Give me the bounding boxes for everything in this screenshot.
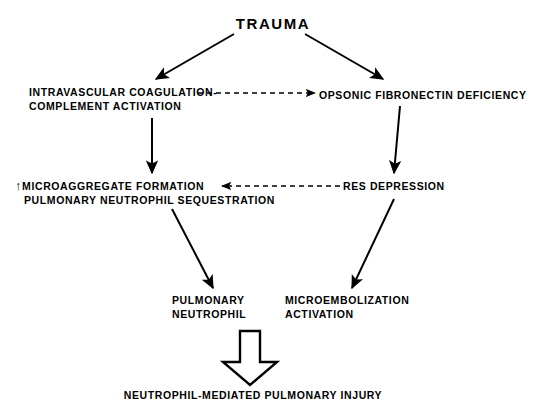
edge-microaggregate-to-pulmonary-neutrophil xyxy=(172,209,213,288)
node-pulmonary-neutrophil: PULMONARY NEUTROPHIL xyxy=(172,293,246,321)
node-res-depression: RES DEPRESSION xyxy=(343,179,445,193)
node-outcome-label: NEUTROPHIL-MEDIATED PULMONARY INJURY xyxy=(0,388,506,402)
node-intravascular-line1: INTRAVASCULAR COAGULATION- xyxy=(29,85,217,99)
node-trauma-label: TRAUMA xyxy=(0,14,546,34)
flowchart-diagram: OPSONIC --> MICROAGGREGATE (left) --> TR… xyxy=(0,0,546,406)
node-intravascular-coagulation: INTRAVASCULAR COAGULATION- COMPLEMENT AC… xyxy=(29,85,217,113)
node-microembolization-activation: MICROEMBOLIZATION ACTIVATION xyxy=(285,293,409,321)
node-pulmonary-neutrophil-line1: PULMONARY xyxy=(172,293,246,307)
node-microembolization-line2: ACTIVATION xyxy=(285,307,409,321)
node-microaggregate-line2: PULMONARY NEUTROPHIL SEQUESTRATION xyxy=(24,193,275,207)
node-microaggregate-line1: ↑MICROAGGREGATE FORMATION xyxy=(15,179,275,193)
edge-res-to-microembolization xyxy=(352,199,394,288)
node-microaggregate-formation: ↑MICROAGGREGATE FORMATION PULMONARY NEUT… xyxy=(15,179,275,207)
node-pulmonary-neutrophil-line2: NEUTROPHIL xyxy=(172,307,246,321)
node-res-line1: RES DEPRESSION xyxy=(343,179,445,193)
node-opsonic-line1: OPSONIC FIBRONECTIN DEFICIENCY xyxy=(319,88,527,102)
node-trauma: TRAUMA xyxy=(0,14,546,34)
node-intravascular-line2: COMPLEMENT ACTIVATION xyxy=(29,99,217,113)
node-outcome: NEUTROPHIL-MEDIATED PULMONARY INJURY xyxy=(0,388,506,402)
edge-opsonic-to-res xyxy=(394,106,400,173)
edge-to-outcome xyxy=(223,331,277,385)
node-opsonic-fibronectin-deficiency: OPSONIC FIBRONECTIN DEFICIENCY xyxy=(319,88,527,102)
edge-trauma-to-opsonic xyxy=(305,34,383,79)
edge-trauma-to-intravascular xyxy=(156,34,234,79)
node-microaggregate-text: MICROAGGREGATE FORMATION xyxy=(22,180,204,192)
node-microembolization-line1: MICROEMBOLIZATION xyxy=(285,293,409,307)
